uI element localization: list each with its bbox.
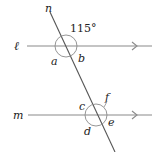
label-given-angle: 115° xyxy=(70,22,97,35)
geometry-diagram: n ℓ 115° a b m c f d e xyxy=(0,0,160,152)
label-angle-c: c xyxy=(79,100,85,113)
label-angle-e: e xyxy=(108,116,115,129)
label-angle-b: b xyxy=(78,52,85,65)
line-l xyxy=(27,42,152,50)
label-angle-f: f xyxy=(104,91,111,104)
label-m: m xyxy=(13,109,23,122)
line-m xyxy=(28,111,152,119)
label-angle-d: d xyxy=(84,125,91,138)
label-l: ℓ xyxy=(14,39,19,53)
label-angle-a: a xyxy=(51,55,58,68)
label-n: n xyxy=(45,2,52,15)
